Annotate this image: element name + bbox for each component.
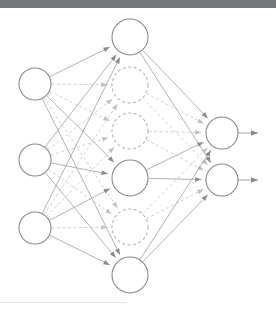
output-node-2 (206, 164, 238, 196)
edge-h2-to-o1 (146, 94, 203, 124)
edge-h4-to-o2 (149, 178, 202, 179)
input-node-3 (19, 212, 51, 244)
input-node-2 (19, 144, 51, 176)
network-nodes (19, 19, 238, 293)
edge-h1-to-o2 (140, 53, 211, 163)
edge-i2-to-h4 (51, 163, 108, 174)
edge-h6-to-o1 (140, 150, 211, 259)
edges-input-to-hidden (42, 47, 120, 265)
bottom-separator-rule (0, 302, 126, 303)
hidden-node-1 (112, 19, 148, 55)
output-arrows (238, 133, 258, 180)
edge-i3-to-h3 (47, 147, 115, 216)
hidden-node-2 (112, 67, 148, 103)
edge-h5-to-o2 (146, 189, 203, 218)
edge-i1-to-h5 (44, 98, 117, 209)
network-diagram (0, 0, 276, 315)
output-node-1 (206, 117, 238, 149)
hidden-node-3 (112, 113, 148, 149)
edge-i3-to-h2 (44, 104, 117, 215)
edge-i2-to-h5 (48, 170, 111, 215)
hidden-node-5 (112, 209, 148, 245)
neural-network-figure (0, 0, 276, 315)
edges-hidden-to-output (140, 50, 211, 261)
edge-i1-to-h4 (47, 96, 114, 163)
edge-i2-to-h3 (51, 138, 109, 156)
edge-i3-to-h4 (50, 188, 110, 220)
hidden-node-6 (112, 257, 148, 293)
edge-i3-to-h5 (52, 227, 108, 228)
edge-i1-to-h6 (42, 99, 120, 255)
edge-i2-to-h1 (45, 55, 116, 147)
edge-h5-to-o1 (143, 148, 208, 214)
edge-i1-to-h2 (52, 84, 108, 85)
edge-i1-to-h1 (50, 47, 110, 77)
hidden-node-4 (112, 160, 148, 196)
input-node-1 (19, 68, 51, 100)
